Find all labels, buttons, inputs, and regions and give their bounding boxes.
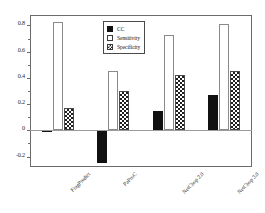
legend-swatch-filled-square-icon [107,26,113,32]
chart-legend: CCSensitivitySpecificity [103,21,145,54]
bar-sensitivity-fragpredict [53,22,63,131]
bar-cc-paproc [97,130,107,163]
y-tick-label: 0.8 [18,20,25,26]
bar-specificity-paproc [119,91,129,130]
legend-item-cc[interactable]: CC [107,24,140,33]
bar-specificity-netchop-3-0 [230,71,240,130]
x-axis: FragPredictPaProCNetChop 2.0NetChop 3.0 [30,167,252,213]
x-axis-label-netchop-2-0: NetChop 2.0 [181,171,205,195]
legend-item-sensitivity[interactable]: Sensitivity [107,33,140,42]
y-tick-label: 0.2 [18,99,25,105]
bar-specificity-netchop-2-0 [175,75,185,130]
legend-label: Specificity [117,44,140,50]
bar-sensitivity-paproc [108,71,118,130]
bar-sensitivity-netchop-3-0 [219,24,229,130]
legend-label: Sensitivity [117,35,140,41]
bar-sensitivity-netchop-2-0 [164,35,174,131]
x-axis-label-paproc: PaProC [122,171,138,187]
y-axis: 0.80.60.40.20-0.2 [0,0,30,213]
legend-swatch-hatched-square-icon [107,44,113,50]
y-tick-label: 0.6 [18,47,25,53]
y-tick-label: 0.4 [18,73,25,79]
bar-specificity-fragpredict [64,108,74,130]
x-axis-label-netchop-3-0: NetChop 3.0 [236,171,260,195]
y-tick-label: 0 [22,125,25,131]
y-tick-label: -0.2 [16,152,25,158]
legend-item-specificity[interactable]: Specificity [107,42,140,51]
legend-label: CC [117,26,124,32]
bar-chart: 0.80.60.40.20-0.2 CCSensitivitySpecifici… [0,0,265,213]
bar-cc-netchop-3-0 [208,95,218,130]
x-axis-label-fragpredict: FragPredict [69,171,91,193]
legend-swatch-empty-square-icon [107,35,113,41]
bar-cc-netchop-2-0 [153,111,163,131]
zero-baseline [30,130,252,131]
